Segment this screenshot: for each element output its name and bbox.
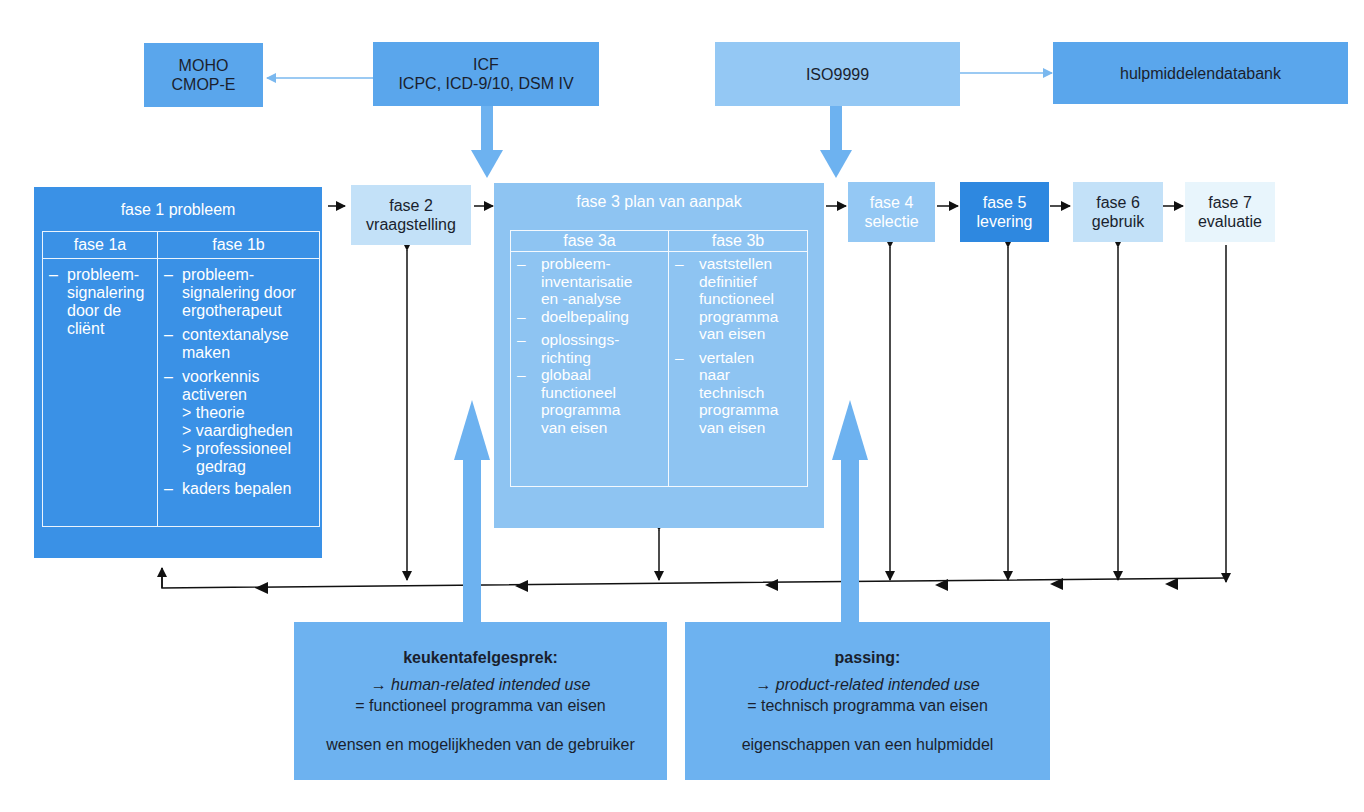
- passing-box: passing: → product-related intended use …: [685, 622, 1050, 780]
- moho-label: MOHO: [179, 56, 229, 75]
- fase4-label: selectie: [864, 212, 918, 231]
- list-item: – doelbepaling: [511, 308, 668, 326]
- fase3a-header: fase 3a: [511, 231, 668, 252]
- icf-down-arrow: [471, 106, 503, 178]
- fase3b-list: – vaststellen definitief functioneel pro…: [669, 255, 807, 436]
- keukentafel-wensen: wensen en mogelijkheden van de gebruiker: [326, 734, 635, 755]
- fase3a-list: – probleem- inventarisatie en -analyse –…: [511, 255, 668, 436]
- list-item: – probleem- signalering door de cliënt: [43, 266, 157, 338]
- list-item: – globaal functioneel programma van eise…: [511, 366, 668, 436]
- list-item: – voorkennis activeren > theorie > vaard…: [158, 368, 319, 476]
- fase1b-header: fase 1b: [158, 232, 319, 259]
- cmop-label: CMOP-E: [172, 75, 236, 94]
- fase3b-header: fase 3b: [669, 231, 807, 252]
- fase3-title: fase 3 plan van aanpak: [494, 193, 824, 211]
- fase1a-column: fase 1a – probleem- signalering door de …: [43, 232, 158, 526]
- iso9999-box: ISO9999: [715, 42, 960, 106]
- list-item: – oplossings- richting: [511, 331, 668, 366]
- list-item: – probleem- inventarisatie en -analyse: [511, 255, 668, 308]
- fase2-label: vraagstelling: [366, 215, 456, 234]
- icf-label: ICF: [473, 55, 499, 74]
- fase1a-header: fase 1a: [43, 232, 157, 259]
- fase1-title: fase 1 probleem: [34, 201, 322, 219]
- iso9999-label: ISO9999: [806, 65, 869, 84]
- list-item: – kaders bepalen: [158, 480, 319, 498]
- fase7-label: evaluatie: [1198, 212, 1262, 231]
- hulpmiddelendatabank-box: hulpmiddelendatabank: [1053, 42, 1348, 104]
- moho-box: MOHO CMOP-E: [144, 43, 263, 107]
- list-item: – contextanalyse maken: [158, 326, 319, 362]
- fase7-box: fase 7 evaluatie: [1185, 182, 1275, 242]
- fase3-box: fase 3 plan van aanpak fase 3a – problee…: [494, 183, 824, 528]
- fase1b-column: fase 1b – probleem- signalering door erg…: [158, 232, 319, 526]
- fase2-number: fase 2: [389, 196, 433, 215]
- fase7-number: fase 7: [1208, 193, 1252, 212]
- fase4-number: fase 4: [870, 193, 914, 212]
- fase3b-column: fase 3b – vaststellen definitief functio…: [669, 231, 807, 486]
- passing-eigenschappen: eigenschappen van een hulpmiddel: [742, 734, 994, 755]
- fase5-label: levering: [976, 212, 1032, 231]
- keukentafel-human-use: → human-related intended use: [371, 674, 591, 695]
- fase4-box: fase 4 selectie: [848, 182, 935, 242]
- passing-up-arrow: [832, 400, 868, 625]
- keukentafel-title: keukentafelgesprek:: [403, 647, 558, 668]
- fase1-table: fase 1a – probleem- signalering door de …: [42, 231, 320, 527]
- icf-classifications: ICPC, ICD-9/10, DSM IV: [398, 74, 573, 93]
- list-item: – vertalen naar technisch programma van …: [669, 349, 807, 437]
- fase5-box: fase 5 levering: [960, 182, 1049, 242]
- fase1b-list: – probleem- signalering door ergotherape…: [158, 266, 319, 498]
- icf-box: ICF ICPC, ICD-9/10, DSM IV: [373, 42, 599, 106]
- fase2-box: fase 2 vraagstelling: [351, 185, 471, 245]
- fase6-box: fase 6 gebruik: [1073, 182, 1163, 242]
- keukentafel-functioneel: = functioneel programma van eisen: [355, 695, 605, 716]
- fase1-box: fase 1 probleem fase 1a – probleem- sign…: [34, 187, 322, 558]
- passing-title: passing:: [835, 647, 901, 668]
- fase1a-list: – probleem- signalering door de cliënt: [43, 266, 157, 338]
- fase3a-column: fase 3a – probleem- inventarisatie en -a…: [511, 231, 669, 486]
- keukentafel-up-arrow: [454, 400, 490, 625]
- fase3-table: fase 3a – probleem- inventarisatie en -a…: [510, 230, 808, 487]
- fase6-number: fase 6: [1096, 193, 1140, 212]
- keukentafelgesprek-box: keukentafelgesprek: → human-related inte…: [294, 622, 667, 780]
- list-item: – vaststellen definitief functioneel pro…: [669, 255, 807, 343]
- iso-down-arrow: [820, 106, 852, 178]
- passing-product-use: → product-related intended use: [755, 674, 979, 695]
- fase6-label: gebruik: [1092, 212, 1144, 231]
- passing-technisch: = technisch programma van eisen: [747, 695, 988, 716]
- list-item: – probleem- signalering door ergotherape…: [158, 266, 319, 320]
- database-label: hulpmiddelendatabank: [1120, 64, 1281, 83]
- fase5-number: fase 5: [983, 193, 1027, 212]
